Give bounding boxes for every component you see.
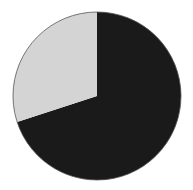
pie-chart xyxy=(0,0,193,190)
